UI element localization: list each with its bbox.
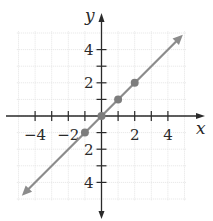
data-point [98, 112, 106, 120]
y-tick-label: 4 [84, 41, 94, 59]
x-tick-label: −4 [24, 126, 46, 144]
y-axis-down-arrow-icon [99, 211, 105, 219]
plot-series [22, 35, 183, 196]
y-tick-label: 4 [84, 174, 94, 192]
coordinate-plane: −4−2244224 x y [0, 0, 213, 221]
y-axis-up-arrow-icon [99, 13, 105, 22]
data-point [114, 95, 122, 103]
x-tick-label: 4 [163, 126, 173, 144]
y-axis-label: y [84, 5, 95, 25]
x-tick-label: 2 [130, 126, 140, 144]
data-point [81, 129, 89, 137]
x-axis-label: x [196, 118, 206, 138]
y-tick-label: 2 [84, 141, 94, 159]
y-tick-label: 2 [84, 74, 94, 92]
data-point [131, 79, 139, 87]
